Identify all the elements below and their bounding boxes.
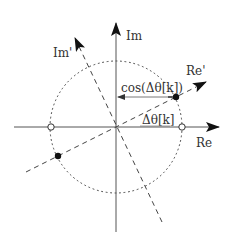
cos-label: cos(Δθ[k])	[121, 81, 183, 95]
open-marker-right	[179, 124, 185, 130]
re-axis-label: Re	[196, 136, 212, 150]
filled-marker-lower	[55, 153, 61, 159]
re-rotated-label: Re'	[186, 64, 205, 78]
im-axis-label: Im	[126, 29, 143, 43]
complex-plane-diagram: Im Im' Re' Re cos(Δθ[k]) Δθ[k]	[0, 0, 232, 245]
im-rotated-label: Im'	[53, 46, 72, 60]
open-marker-left	[48, 124, 54, 130]
im-rotated-axis	[75, 38, 162, 222]
angle-label: Δθ[k]	[142, 113, 175, 127]
